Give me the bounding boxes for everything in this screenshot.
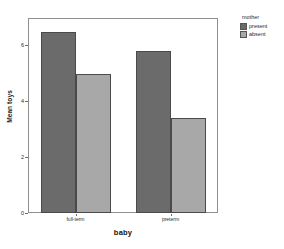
y-axis-tick-label: 4 bbox=[21, 97, 24, 106]
bar-preterm-absent[interactable] bbox=[171, 118, 206, 213]
legend-title: mother bbox=[242, 14, 284, 20]
x-axis-title: baby bbox=[28, 228, 218, 237]
legend-swatch-present-icon bbox=[240, 23, 247, 30]
legend-label-present: present bbox=[249, 23, 267, 30]
y-axis-ticks: 0246 bbox=[0, 18, 28, 213]
bar-full-term-absent[interactable] bbox=[76, 74, 111, 213]
legend-item-present[interactable]: present bbox=[240, 23, 284, 30]
y-axis-tick-label: 2 bbox=[21, 153, 24, 162]
x-axis-labels: full-termpreterm bbox=[28, 214, 218, 226]
chart-container: Mean toys 0246 full-termpreterm baby mot… bbox=[0, 0, 284, 249]
y-axis-tick-label: 0 bbox=[21, 209, 24, 218]
x-axis-tick-label: full-term bbox=[66, 216, 84, 222]
x-axis-tick-label: preterm bbox=[162, 216, 179, 222]
bar-full-term-present[interactable] bbox=[41, 32, 76, 213]
legend-item-absent[interactable]: absent bbox=[240, 31, 284, 38]
legend-swatch-absent-icon bbox=[240, 31, 247, 38]
legend: mother present absent bbox=[240, 14, 284, 40]
bars-layer bbox=[28, 18, 218, 213]
y-axis-tick-label: 6 bbox=[21, 41, 24, 50]
legend-label-absent: absent bbox=[249, 31, 266, 38]
bar-preterm-present[interactable] bbox=[136, 51, 171, 213]
